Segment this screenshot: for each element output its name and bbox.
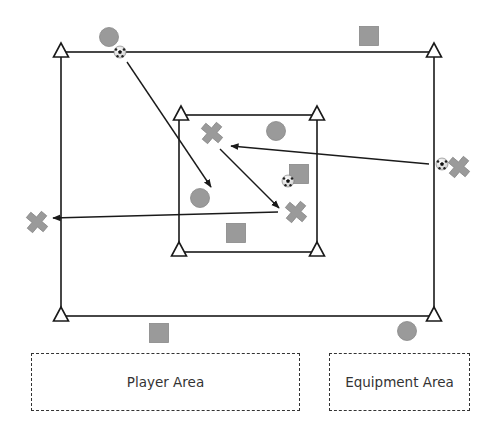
pass-arrow — [127, 62, 211, 187]
circle-player-icon — [267, 122, 286, 141]
square-player-icon — [150, 324, 169, 343]
pass-arrow — [220, 149, 279, 208]
soccer-ball-icon — [436, 158, 448, 170]
outer-field-boundary — [61, 52, 434, 316]
circle-markers — [100, 28, 417, 341]
cone-icon — [54, 307, 69, 321]
cone-icon — [310, 106, 325, 120]
player-area-label: Player Area — [127, 374, 204, 390]
circle-player-icon — [191, 189, 210, 208]
circle-player-icon — [398, 322, 417, 341]
circle-player-icon — [100, 28, 119, 47]
cross-player-icon — [197, 118, 228, 149]
player-area-zone: Player Area — [31, 353, 300, 411]
equipment-area-label: Equipment Area — [345, 374, 454, 390]
cone-icon — [310, 242, 325, 256]
cone-icon — [54, 43, 69, 57]
cones — [54, 43, 442, 321]
square-player-icon — [360, 27, 379, 46]
pass-arrows — [53, 62, 429, 218]
soccer-ball-icon — [114, 46, 126, 58]
cone-icon — [427, 307, 442, 321]
outer-field-rect — [61, 52, 434, 316]
cone-icon — [172, 242, 187, 256]
cross-player-icon — [444, 152, 475, 183]
soccer-ball-icon — [282, 175, 294, 187]
cross-player-icon — [281, 197, 312, 228]
cone-icon — [174, 106, 189, 120]
square-player-icon — [227, 224, 246, 243]
square-markers — [150, 27, 379, 343]
pass-arrow — [53, 212, 278, 218]
equipment-area-zone: Equipment Area — [329, 353, 470, 411]
pass-arrow — [231, 146, 429, 164]
cross-player-icon — [22, 207, 53, 238]
cone-icon — [427, 43, 442, 57]
